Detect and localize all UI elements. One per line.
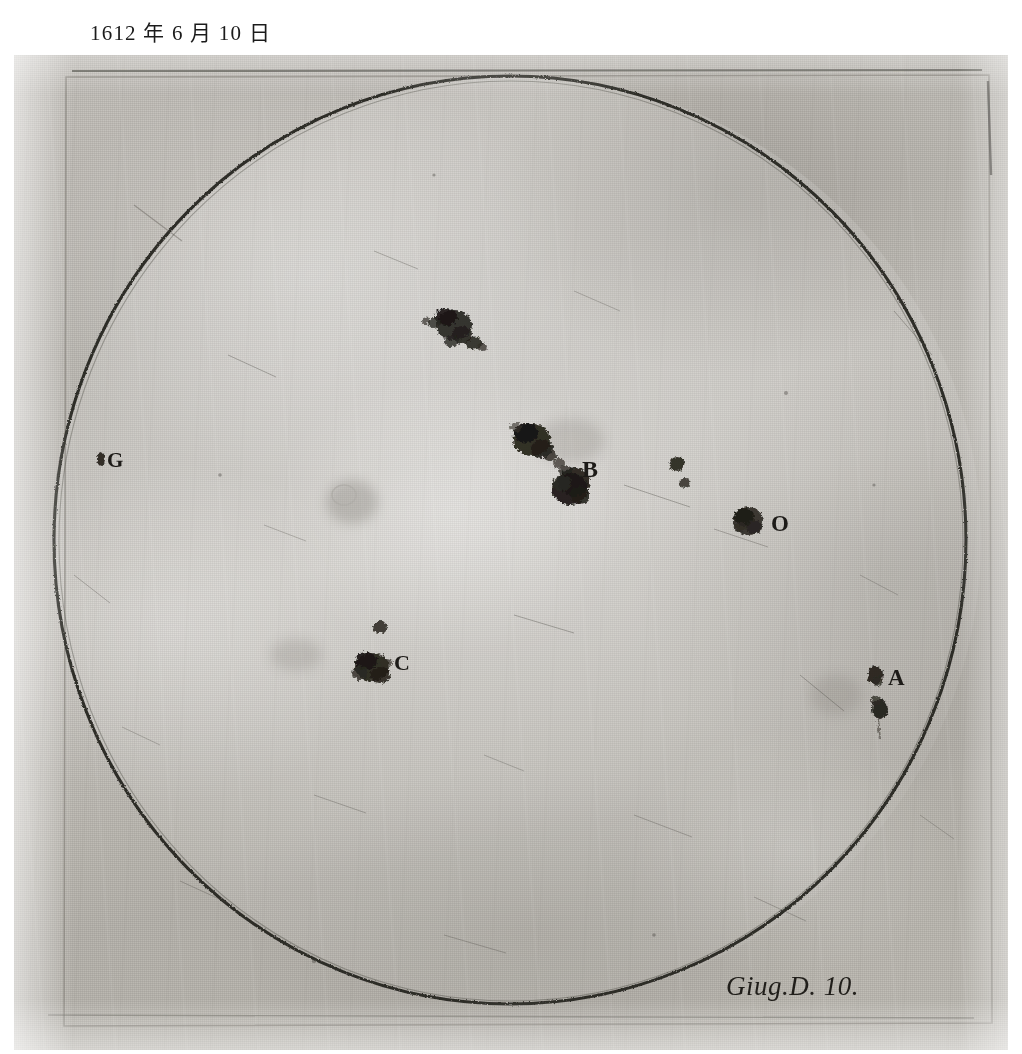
- sunspot-label-b: B: [582, 456, 598, 482]
- sunspot-group-g: [97, 452, 105, 466]
- drawing-layer: B O C: [14, 55, 1008, 1050]
- observation-date-caption: 1612 年 6 月 10 日: [90, 16, 271, 46]
- sunspot-group-c: [352, 621, 392, 683]
- sunspot-group-north-cluster: [422, 308, 487, 351]
- plate-signature: Giug.D. 10.: [726, 971, 859, 1001]
- plate-scratches: [74, 173, 954, 963]
- plate-border-frame: [48, 70, 992, 1026]
- sunspot-drawing-plate: B O C: [14, 55, 1008, 1050]
- solar-disc-limb: [54, 76, 966, 1004]
- sunspot-group-o: [733, 507, 763, 535]
- sunspot-label-c: C: [394, 650, 410, 675]
- sunspot-group-a: [867, 666, 888, 739]
- sunspot-label-o: O: [771, 511, 789, 536]
- sunspot-label-g: G: [107, 448, 123, 472]
- caption-bar: 1612 年 6 月 10 日: [0, 0, 1022, 55]
- sunspot-label-a: A: [888, 665, 905, 690]
- sunspot-faint-smudge: [326, 480, 378, 524]
- sunspot-group-east-pair: [670, 457, 691, 488]
